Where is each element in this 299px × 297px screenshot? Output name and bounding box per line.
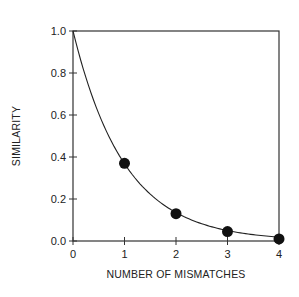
x-tick-label: 0 [70,248,76,260]
y-tick-label: 0.2 [51,193,66,205]
data-point [222,226,233,237]
data-point [119,158,130,169]
y-tick-label: 0.0 [51,235,66,247]
y-tick-label: 1.0 [51,25,66,37]
y-axis-label: SIMILARITY [10,106,22,166]
chart: 0.00.20.40.60.81.0 01234 NUMBER OF MISMA… [0,0,299,297]
x-tick-label: 4 [276,248,282,260]
fit-curve [73,31,279,237]
y-tick-label: 0.8 [51,67,66,79]
y-tick-label: 0.4 [51,151,66,163]
x-axis-label: NUMBER OF MISMATCHES [106,268,245,280]
x-tick-label: 1 [121,248,127,260]
y-tick-label: 0.6 [51,109,66,121]
data-point [274,233,285,244]
data-points [119,158,285,245]
x-tick-label: 2 [173,248,179,260]
data-point [171,208,182,219]
x-tick-label: 3 [224,248,230,260]
